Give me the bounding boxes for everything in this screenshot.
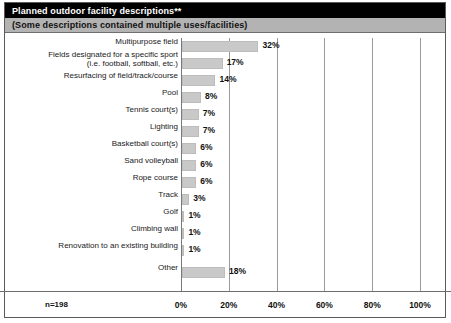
bar-value-label: 1% — [188, 244, 200, 254]
bar-row: Pool8% — [0, 89, 451, 106]
bar-value-label: 1% — [188, 227, 200, 237]
bar-row: Resurfacing of field/track/course14% — [0, 72, 451, 89]
bar-row: Track3% — [0, 191, 451, 208]
bar-row: Tennis court(s)7% — [0, 106, 451, 123]
x-axis: n=198 0%20%40%60%80%100% — [0, 291, 451, 319]
bar-category-label: Pool — [8, 89, 178, 98]
bar — [182, 143, 196, 154]
bar — [182, 160, 196, 171]
bar — [182, 211, 184, 222]
bar-row: Sand volleyball6% — [0, 157, 451, 174]
bar-category-label: Other — [8, 264, 178, 273]
bar-row: Other18% — [0, 264, 451, 281]
bar-category-label: Track — [8, 191, 178, 200]
bar-category-label: Golf — [8, 208, 178, 217]
bar-row: Fields designated for a specific sport (… — [0, 55, 451, 72]
bar-value-label: 17% — [227, 57, 244, 67]
bar-category-label: Fields designated for a specific sport (… — [8, 51, 178, 68]
bar-row: Basketball court(s)6% — [0, 140, 451, 157]
sample-size-label: n=198 — [45, 300, 68, 309]
bar — [182, 245, 184, 256]
bar-value-label: 1% — [188, 210, 200, 220]
bar-rows: Multipurpose field32%Fields designated f… — [0, 38, 451, 291]
bar-category-label: Climbing wall — [8, 225, 178, 234]
x-tick-label: 0% — [175, 300, 187, 310]
bar-value-label: 18% — [229, 266, 246, 276]
bar — [182, 228, 184, 239]
bar-category-label: Multipurpose field — [8, 38, 178, 47]
bar-category-label: Tennis court(s) — [8, 106, 178, 115]
bar — [182, 194, 189, 205]
bar — [182, 177, 196, 188]
chart-subtitle-bar: (Some descriptions contained multiple us… — [5, 18, 445, 33]
bar-category-label: Basketball court(s) — [8, 140, 178, 149]
bar — [182, 126, 199, 137]
bar — [182, 92, 201, 103]
page-title: Planned outdoor facility descriptions** — [5, 6, 181, 16]
bar-value-label: 7% — [203, 108, 215, 118]
bar-value-label: 6% — [200, 159, 212, 169]
bar-row: Renovation to an existing building1% — [0, 242, 451, 259]
chart-subtitle: (Some descriptions contained multiple us… — [5, 20, 247, 30]
bar-row: Lighting7% — [0, 123, 451, 140]
bar-value-label: 8% — [205, 91, 217, 101]
bar-row: Rope course6% — [0, 174, 451, 191]
x-tick-label: 100% — [409, 300, 431, 310]
bar — [182, 109, 199, 120]
bar-category-label: Lighting — [8, 123, 178, 132]
bar-value-label: 14% — [219, 74, 236, 84]
bar-row: Climbing wall1% — [0, 225, 451, 242]
bar-category-label: Sand volleyball — [8, 157, 178, 166]
bar-value-label: 32% — [262, 40, 279, 50]
bar-row: Golf1% — [0, 208, 451, 225]
bar — [182, 58, 223, 69]
chart-figure: Planned outdoor facility descriptions** … — [0, 0, 451, 323]
x-tick-label: 80% — [364, 300, 381, 310]
x-tick-label: 20% — [220, 300, 237, 310]
bar — [182, 267, 225, 278]
x-tick-label: 60% — [316, 300, 333, 310]
bar-value-label: 3% — [193, 193, 205, 203]
bar-value-label: 6% — [200, 176, 212, 186]
bar — [182, 41, 258, 52]
bar-category-label: Renovation to an existing building — [8, 242, 178, 251]
chart-title-bar: Planned outdoor facility descriptions** — [5, 3, 445, 18]
bar-value-label: 7% — [203, 125, 215, 135]
bar — [182, 75, 215, 86]
bar-value-label: 6% — [200, 142, 212, 152]
bar-category-label: Resurfacing of field/track/course — [8, 72, 178, 81]
x-tick-label: 40% — [268, 300, 285, 310]
bar-category-label: Rope course — [8, 174, 178, 183]
